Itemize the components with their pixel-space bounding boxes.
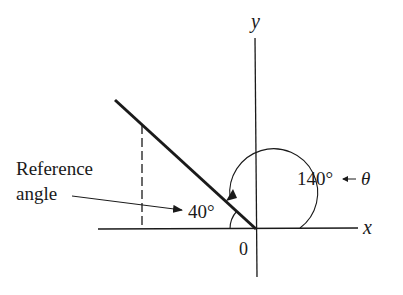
theta-arc-arrowhead-icon bbox=[226, 189, 237, 201]
reference-caption-line2: angle bbox=[16, 183, 57, 204]
reference-arc bbox=[230, 211, 237, 229]
reference-angle-diagram: y x 0 Reference angle 40° 140° θ bbox=[0, 0, 403, 295]
theta-pointer-arrowhead-icon bbox=[342, 176, 348, 182]
y-axis-label: y bbox=[249, 10, 260, 33]
y-axis bbox=[255, 38, 257, 277]
x-axis-label: x bbox=[362, 216, 372, 238]
x-axis bbox=[98, 228, 358, 229]
origin-label: 0 bbox=[239, 239, 248, 259]
theta-symbol: θ bbox=[361, 168, 370, 189]
reference-angle-value: 40° bbox=[188, 201, 215, 222]
reference-caption-line1: Reference bbox=[16, 158, 93, 179]
theta-value: 140° bbox=[297, 168, 333, 189]
terminal-side bbox=[115, 100, 256, 229]
reference-pointer-arrow bbox=[72, 196, 182, 210]
